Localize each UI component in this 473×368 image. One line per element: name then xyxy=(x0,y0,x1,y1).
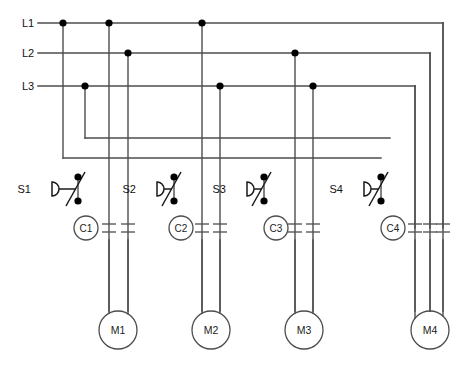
contactor-label-C3: C3 xyxy=(270,223,283,234)
motor-label-M2: M2 xyxy=(204,324,219,336)
switch-node-bottom-S2 xyxy=(170,197,177,204)
switch-label-S4: S4 xyxy=(330,183,343,195)
circuit-diagram-canvas: L1L2L3S1S2S3S4C1C2C3C4M1M2M3M4 xyxy=(0,0,473,368)
contactor-label-C1: C1 xyxy=(80,223,93,234)
switch-node-top-S1 xyxy=(74,173,81,180)
switch-label-S2: S2 xyxy=(123,183,136,195)
bus-label-L3: L3 xyxy=(22,80,34,92)
junction-node-L3-2 xyxy=(309,82,316,89)
switch-node-bottom-S4 xyxy=(377,197,384,204)
motor-label-M3: M3 xyxy=(297,324,312,336)
junction-node-L2-1 xyxy=(291,49,298,56)
switch-node-top-S3 xyxy=(260,173,267,180)
switch-label-S3: S3 xyxy=(213,183,226,195)
motor-label-M1: M1 xyxy=(111,324,126,336)
bus-label-L1: L1 xyxy=(22,17,34,29)
switch-label-S1: S1 xyxy=(18,183,31,195)
motor-label-M4: M4 xyxy=(423,324,438,336)
bus-label-L2: L2 xyxy=(22,47,34,59)
switch-node-bottom-S3 xyxy=(260,197,267,204)
switch-node-top-S2 xyxy=(170,173,177,180)
diagram-background xyxy=(0,0,473,368)
junction-node-L1-2 xyxy=(198,19,205,26)
switch-node-top-S4 xyxy=(377,173,384,180)
contactor-label-C2: C2 xyxy=(175,223,188,234)
contactor-label-C4: C4 xyxy=(387,223,400,234)
junction-node-L3-1 xyxy=(216,82,223,89)
junction-node-L3-0 xyxy=(81,82,88,89)
schematic-svg: L1L2L3S1S2S3S4C1C2C3C4M1M2M3M4 xyxy=(0,0,473,368)
switch-node-bottom-S1 xyxy=(74,197,81,204)
junction-node-L2-0 xyxy=(124,49,131,56)
junction-node-L1-1 xyxy=(105,19,112,26)
junction-node-L1-0 xyxy=(59,19,66,26)
